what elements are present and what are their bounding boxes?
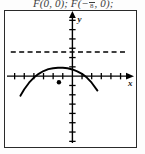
minus-sign: −	[81, 0, 89, 9]
coordinate-plot: y x	[5, 11, 136, 147]
answer-text-before: F(0, 0); F(	[33, 0, 81, 9]
focus-point-marker	[57, 80, 61, 84]
answer-text-after: , 0);	[95, 0, 114, 9]
plot-svg: y x	[5, 11, 135, 146]
answer-text-strip: F(0, 0); F(−18, 0);	[0, 0, 145, 9]
y-axis-label: y	[76, 14, 82, 24]
answer-expression: F(0, 0); F(−18, 0);	[33, 0, 113, 9]
figure-container: F(0, 0); F(−18, 0); y x	[0, 0, 145, 154]
x-axis-label: x	[127, 78, 133, 88]
figure-frame: y x	[4, 10, 137, 148]
